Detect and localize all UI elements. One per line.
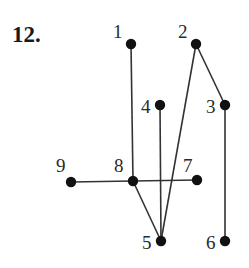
node-label-6: 6 <box>206 232 216 253</box>
node-8 <box>128 176 138 186</box>
node-label-3: 3 <box>206 96 216 117</box>
graph-labels: 123456789 <box>56 21 216 253</box>
node-label-9: 9 <box>56 155 66 176</box>
edge-8-7 <box>133 180 197 181</box>
node-label-4: 4 <box>141 96 151 117</box>
node-label-1: 1 <box>113 21 123 42</box>
edge-9-8 <box>71 181 133 182</box>
node-7 <box>192 175 202 185</box>
node-label-5: 5 <box>142 232 152 253</box>
node-label-2: 2 <box>178 21 188 42</box>
node-label-7: 7 <box>183 155 193 176</box>
node-9 <box>66 177 76 187</box>
node-2 <box>191 39 201 49</box>
edge-1-8 <box>131 44 133 181</box>
node-4 <box>155 100 165 110</box>
node-5 <box>156 236 166 246</box>
graph-nodes <box>66 39 230 246</box>
edge-4-5 <box>160 105 161 241</box>
graph-diagram: 123456789 <box>0 0 249 268</box>
node-1 <box>126 39 136 49</box>
graph-edges <box>71 44 225 241</box>
node-3 <box>220 100 230 110</box>
edge-2-5 <box>161 44 196 241</box>
node-label-8: 8 <box>114 155 124 176</box>
node-6 <box>220 236 230 246</box>
